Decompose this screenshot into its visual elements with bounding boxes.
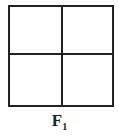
horizontal-divider (10, 53, 112, 55)
square-grid (8, 5, 114, 107)
figure-label: F1 (0, 111, 119, 132)
vertical-divider (61, 7, 63, 105)
label-main: F (52, 111, 62, 130)
label-subscript: 1 (62, 121, 67, 132)
